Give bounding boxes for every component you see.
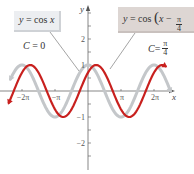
x-tick-label: −2π (17, 93, 30, 102)
label-c: C (23, 40, 30, 51)
frac-den: 4 (163, 49, 167, 57)
label-eq: = cos (23, 14, 49, 25)
label-eq: = (155, 43, 161, 54)
frac-den: 4 (177, 25, 181, 33)
x-tick-label: 2π (151, 93, 159, 102)
phase-label-c-pi-4: C = π4 (148, 40, 168, 57)
label-x: x (50, 14, 54, 25)
leader-line-cos-shift (110, 33, 135, 69)
x-tick-label: π (120, 93, 124, 102)
y-tick-label: 2 (81, 35, 85, 44)
x-tick-label: −π (52, 93, 61, 102)
y-axis-arrow-icon (86, 5, 90, 11)
y-tick-label: −2 (76, 139, 85, 148)
label-box-cos-x: y = cos x (14, 11, 61, 32)
fraction-pi-over-4: π4 (162, 40, 168, 57)
fraction-pi-over-4: π4 (176, 16, 182, 33)
label-c: C (148, 43, 155, 54)
label-minus: − (163, 13, 174, 24)
x-axis-label: x (171, 92, 176, 102)
label-c-value: = 0 (30, 40, 46, 51)
leader-lines (50, 32, 135, 71)
phase-label-c0: C = 0 (23, 40, 45, 51)
label-eq: = cos (127, 13, 153, 24)
leader-line-cos-x (50, 32, 79, 71)
y-tick-label: 1 (81, 61, 85, 70)
label-box-cos-shift: y = cos (x − π4 (118, 7, 194, 33)
y-axis-label: y (79, 4, 84, 14)
curves (7, 62, 172, 117)
y-tick-label: −1 (76, 113, 85, 122)
